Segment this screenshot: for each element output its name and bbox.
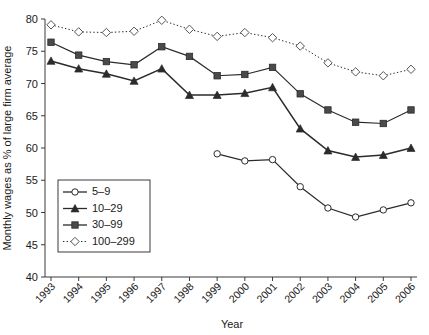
data-point-open-circle xyxy=(72,189,78,195)
marker-filled-triangle xyxy=(269,83,277,90)
data-point-open-diamond xyxy=(351,68,359,76)
data-point-open-diamond xyxy=(74,28,82,36)
y-tick-label: 55 xyxy=(26,174,38,186)
x-axis-title: Year xyxy=(221,318,244,330)
data-point-open-circle xyxy=(380,207,386,213)
data-point-open-diamond xyxy=(241,28,249,36)
y-tick-label: 50 xyxy=(26,207,38,219)
data-point-filled-square xyxy=(408,107,414,113)
data-point-filled-square xyxy=(48,39,54,45)
data-point-open-diamond xyxy=(130,27,138,35)
data-point-filled-square xyxy=(242,71,248,77)
marker-open-diamond xyxy=(158,16,166,24)
line-chart: 4045505560657075801993199419951996199719… xyxy=(0,0,429,335)
marker-filled-square xyxy=(325,107,331,113)
data-point-filled-square xyxy=(269,64,275,70)
marker-open-diamond xyxy=(241,28,249,36)
data-point-filled-square xyxy=(131,62,137,68)
marker-filled-triangle xyxy=(47,57,55,64)
x-tick-label: 1997 xyxy=(143,280,168,305)
legend-label: 5–9 xyxy=(92,185,110,197)
x-tick-label: 2003 xyxy=(309,280,334,305)
y-tick-label: 70 xyxy=(26,78,38,90)
x-tick-label: 1995 xyxy=(88,280,113,305)
x-tick-label: 1996 xyxy=(115,280,140,305)
data-point-filled-square xyxy=(103,58,109,64)
marker-open-diamond xyxy=(379,72,387,80)
x-tick-label: 2004 xyxy=(337,280,362,305)
x-tick-label: 1994 xyxy=(60,280,85,305)
y-tick-label: 60 xyxy=(26,142,38,154)
marker-open-diamond xyxy=(351,68,359,76)
marker-open-diamond xyxy=(74,28,82,36)
marker-filled-square xyxy=(380,120,386,126)
legend-label: 100–299 xyxy=(92,235,135,247)
y-axis-title: Monthly wages as % of large firm average xyxy=(1,46,13,251)
marker-open-diamond xyxy=(324,59,332,67)
data-point-open-circle xyxy=(297,184,303,190)
data-point-filled-square xyxy=(186,53,192,59)
marker-open-circle xyxy=(72,189,78,195)
marker-open-diamond xyxy=(130,27,138,35)
data-point-filled-square xyxy=(380,120,386,126)
marker-open-circle xyxy=(325,205,331,211)
marker-filled-square xyxy=(214,73,220,79)
series-3 xyxy=(48,39,414,127)
marker-filled-square xyxy=(72,222,78,228)
marker-open-circle xyxy=(269,156,275,162)
legend: 5–910–2930–99100–299 xyxy=(58,180,150,252)
plot-area: 4045505560657075801993199419951996199719… xyxy=(1,13,418,330)
marker-open-circle xyxy=(352,214,358,220)
marker-open-diamond xyxy=(407,65,415,73)
y-tick-label: 75 xyxy=(26,45,38,57)
y-tick-label: 40 xyxy=(26,271,38,283)
marker-open-diamond xyxy=(296,42,304,50)
data-point-open-diamond xyxy=(268,34,276,42)
data-point-filled-triangle xyxy=(407,144,415,151)
marker-filled-square xyxy=(75,52,81,58)
x-tick-label: 1998 xyxy=(171,280,196,305)
data-point-open-diamond xyxy=(47,21,55,29)
data-point-open-diamond xyxy=(379,72,387,80)
marker-filled-square xyxy=(352,119,358,125)
data-point-filled-triangle xyxy=(47,57,55,64)
x-tick-label: 2005 xyxy=(365,280,390,305)
marker-filled-square xyxy=(269,64,275,70)
marker-open-circle xyxy=(242,158,248,164)
x-tick-label: 2001 xyxy=(254,280,279,305)
y-axis-ticks: 404550556065707580 xyxy=(26,13,45,283)
marker-filled-square xyxy=(242,71,248,77)
data-point-filled-square xyxy=(75,52,81,58)
data-point-filled-square xyxy=(352,119,358,125)
x-tick-label: 2006 xyxy=(392,280,417,305)
marker-filled-square xyxy=(159,44,165,50)
marker-filled-square xyxy=(103,58,109,64)
marker-open-circle xyxy=(380,207,386,213)
marker-open-circle xyxy=(408,200,414,206)
data-point-open-circle xyxy=(352,214,358,220)
marker-open-diamond xyxy=(185,25,193,33)
data-point-open-diamond xyxy=(158,16,166,24)
marker-filled-square xyxy=(297,91,303,97)
data-point-filled-triangle xyxy=(158,65,166,72)
data-point-open-circle xyxy=(408,200,414,206)
marker-filled-triangle xyxy=(158,65,166,72)
data-point-filled-triangle xyxy=(269,83,277,90)
data-point-filled-square xyxy=(72,222,78,228)
x-tick-label: 2000 xyxy=(226,280,251,305)
marker-filled-square xyxy=(408,107,414,113)
y-tick-label: 65 xyxy=(26,110,38,122)
legend-label: 10–29 xyxy=(92,202,123,214)
marker-open-circle xyxy=(214,151,220,157)
data-point-open-circle xyxy=(269,156,275,162)
x-tick-label: 1993 xyxy=(32,280,57,305)
marker-filled-square xyxy=(48,39,54,45)
data-point-open-diamond xyxy=(324,59,332,67)
data-point-filled-square xyxy=(159,44,165,50)
data-point-filled-square xyxy=(297,91,303,97)
marker-filled-square xyxy=(186,53,192,59)
data-point-open-diamond xyxy=(185,25,193,33)
series-line-path xyxy=(51,42,411,123)
x-tick-label: 1999 xyxy=(199,280,224,305)
marker-filled-square xyxy=(131,62,137,68)
